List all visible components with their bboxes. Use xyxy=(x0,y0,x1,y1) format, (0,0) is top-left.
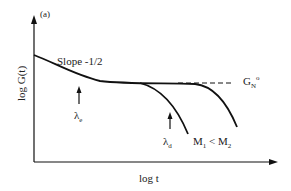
m2-subscript: 2 xyxy=(228,142,232,150)
x-axis xyxy=(34,159,278,165)
m1-symbol: M xyxy=(193,135,203,147)
mass-relation-label: M1 < M2 xyxy=(193,136,231,147)
plateau-modulus-label: GNo xyxy=(243,76,260,87)
y-axis-arrow-icon xyxy=(31,15,37,24)
lambda-e-subscript: e xyxy=(79,116,82,124)
lambda-d-subscript: d xyxy=(168,142,172,150)
m2-symbol: M xyxy=(218,135,228,147)
lambda-d-arrow-icon xyxy=(168,112,173,129)
lambda-e-arrow-icon xyxy=(77,86,82,104)
plot-canvas xyxy=(0,0,291,191)
panel-label: (a) xyxy=(40,10,50,19)
slope-annotation: Slope -1/2 xyxy=(57,56,103,67)
relaxation-modulus-diagram: (a) Slope -1/2 log G(t) log t λe λd GNo … xyxy=(0,0,291,191)
lambda-d-label: λd xyxy=(163,136,172,147)
relation-symbol: < xyxy=(206,135,218,147)
gn-superscript: o xyxy=(256,74,260,82)
gn-symbol: G xyxy=(243,75,251,87)
y-axis-label: log G(t) xyxy=(16,62,27,106)
x-axis-arrow-icon xyxy=(269,159,278,165)
gn-subscript: N xyxy=(251,82,256,90)
x-axis-label: log t xyxy=(139,173,159,184)
y-axis xyxy=(31,15,37,162)
lambda-e-label: λe xyxy=(74,110,82,121)
curve-m1 xyxy=(140,83,188,134)
